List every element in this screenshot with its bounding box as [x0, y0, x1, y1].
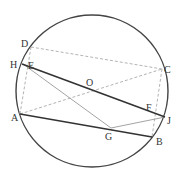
point-label-E: E [28, 60, 34, 71]
point-label-H: H [10, 59, 17, 70]
point-label-F: F [146, 102, 152, 113]
segment-HJ [22, 64, 165, 117]
point-label-C: C [164, 64, 171, 75]
segment-GJ [111, 117, 165, 128]
diagram-canvas: DHEACOFJGB [0, 0, 176, 181]
segment-AB [20, 114, 152, 137]
segment-DC [31, 47, 162, 69]
point-label-J: J [167, 115, 171, 126]
solid-lines [20, 64, 165, 137]
point-label-D: D [21, 38, 28, 49]
point-label-B: B [156, 136, 163, 147]
segment-CB [152, 69, 162, 137]
point-label-G: G [105, 131, 112, 142]
segment-EG [23, 64, 111, 128]
dashed-lines [20, 47, 162, 137]
segment-DA [20, 47, 31, 114]
point-label-O: O [86, 77, 93, 88]
point-labels: DHEACOFJGB [10, 38, 171, 147]
point-label-A: A [11, 112, 19, 123]
geometry-diagram: DHEACOFJGB [0, 0, 176, 181]
